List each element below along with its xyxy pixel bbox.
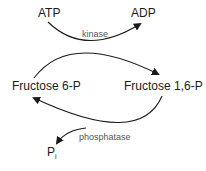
- phosphatase-label: phosphatase: [79, 133, 131, 142]
- kinase-label: kinase: [82, 30, 108, 39]
- phosphatase-reverse-arrow: [34, 96, 162, 123]
- adp-label: ADP: [131, 7, 156, 19]
- pi-base: P: [47, 145, 55, 159]
- pi-subscript: i: [55, 153, 57, 160]
- fructose-6p-label: Fructose 6-P: [12, 80, 81, 92]
- atp-label: ATP: [38, 7, 60, 19]
- fructose-16p-label: Fructose 1,6-P: [124, 80, 203, 92]
- kinase-forward-arrow: [34, 53, 158, 78]
- pi-label: Pi: [47, 146, 57, 160]
